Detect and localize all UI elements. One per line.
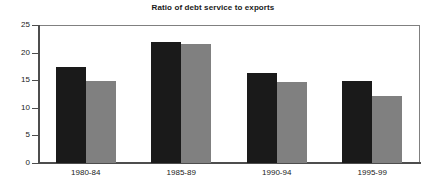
y-axis-labels: 0510152025: [0, 0, 30, 188]
bar-group: [56, 25, 116, 163]
x-axis-category-label: 1985-89: [134, 168, 230, 177]
y-axis-tick-label: 25: [2, 21, 30, 29]
bar-group: [247, 25, 307, 163]
y-axis-tick-label: 10: [2, 104, 30, 112]
y-axis-tick-label: 20: [2, 49, 30, 57]
bar-1980-84-series-1: [56, 67, 86, 163]
bar-1980-84-series-2: [86, 81, 116, 163]
bar-group: [342, 25, 402, 163]
y-axis-tick-label: 5: [2, 131, 30, 139]
bar-group: [151, 25, 211, 163]
bar-chart-figure: Ratio of debt service to exports 0510152…: [0, 0, 426, 188]
x-axis-category-label: 1995-99: [325, 168, 421, 177]
y-axis-tick: [32, 80, 39, 81]
bar-1995-99-series-2: [372, 96, 402, 163]
bar-1985-89-series-2: [181, 44, 211, 163]
bar-1990-94-series-2: [277, 82, 307, 163]
y-axis-tick: [32, 135, 39, 136]
y-axis-tick: [32, 163, 39, 164]
bar-1985-89-series-1: [151, 42, 181, 163]
y-axis-tick: [32, 108, 39, 109]
y-axis-tick-label: 15: [2, 76, 30, 84]
y-axis-tick: [32, 25, 39, 26]
y-axis-tick-label: 0: [2, 159, 30, 167]
x-axis-category-label: 1980-84: [38, 168, 134, 177]
x-axis-category-label: 1990-94: [229, 168, 325, 177]
bar-1995-99-series-1: [342, 81, 372, 163]
y-axis-line: [38, 25, 40, 164]
y-axis-tick: [32, 53, 39, 54]
chart-title: Ratio of debt service to exports: [0, 3, 426, 12]
bar-1990-94-series-1: [247, 73, 277, 163]
